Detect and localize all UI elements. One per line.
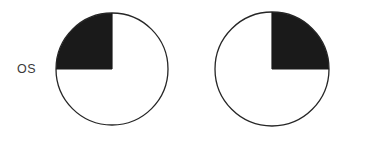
eye-circle-svg-os: [0, 0, 192, 149]
quadrant-upper-left-filled-os: [56, 13, 112, 69]
visual-field-diagram: OS OD: [0, 0, 384, 149]
eye-diagram-os: OS: [0, 0, 192, 149]
eye-circle-svg-od: [192, 0, 384, 149]
quadrant-upper-right-filled-od: [272, 12, 329, 69]
eye-diagram-od: OD: [192, 0, 384, 149]
